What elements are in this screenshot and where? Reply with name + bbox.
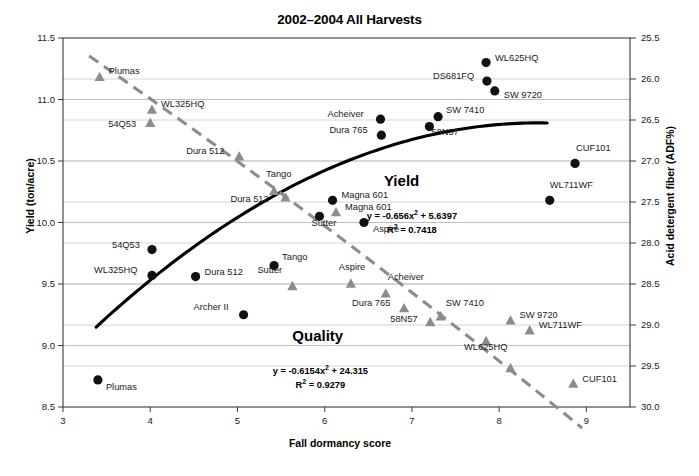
data-point-triangle [568,378,578,387]
x-tick: 4 [135,415,165,426]
y-tick-right: 27.5 [641,196,685,207]
y-tick-right: 29.5 [641,360,685,371]
point-label: Aspire [339,263,365,272]
point-label: 54Q53 [112,241,140,250]
point-label: Acheiver [388,273,424,282]
data-point-triangle [505,363,515,372]
data-point-triangle [287,281,297,290]
point-label: DS681FQ [433,72,474,81]
data-point-circle [482,76,491,85]
y-tick-left: 10.5 [15,155,55,166]
y-axis-left-title: Yield (ton/acre) [24,96,36,296]
x-tick: 6 [310,415,340,426]
point-label: SW 9720 [519,311,557,320]
series-annotation: Yield [384,172,419,189]
data-point-circle [377,131,386,140]
data-point-circle [239,310,248,319]
data-point-circle [481,58,490,67]
y-tick-right: 25.5 [641,32,685,43]
y-tick-left: 9.0 [15,340,55,351]
point-label: 58N57 [390,315,417,324]
y-tick-left: 9.5 [15,278,55,289]
point-label: SW 7410 [446,106,484,115]
point-label: Acheiver [328,110,364,119]
x-axis-title: Fall dormancy score [0,437,680,449]
y-tick-right: 28.0 [641,237,685,248]
point-label: Dura 765 [352,299,390,308]
point-label: Magna 601 [342,191,389,200]
point-label: WL711WF [539,321,582,330]
y-tick-right: 26.0 [641,73,685,84]
point-label: CUF101 [576,144,611,153]
r-squared-text: R2 = 0.7418 [387,225,437,235]
y-tick-left: 11.5 [15,32,55,43]
y-tick-right: 27.0 [641,155,685,166]
data-point-circle [93,375,102,384]
data-point-circle [147,245,156,254]
regression-equation: y = -0.656x2 + 5.6397R2 = 0.7418 [332,208,492,237]
point-label: WL325HQ [94,266,137,275]
y-tick-right: 28.5 [641,278,685,289]
data-point-circle [433,112,442,121]
y-tick-right: 30.0 [641,401,685,412]
point-label: Dura 512 [205,268,243,277]
x-tick: 5 [222,415,252,426]
equation-text: y = -0.6154x2 + 24.315 [273,366,368,376]
y-tick-left: 8.5 [15,401,55,412]
data-point-triangle [425,317,435,326]
data-point-triangle [399,303,409,312]
point-label: Plumas [106,383,137,392]
point-label: Archer II [194,303,229,312]
point-label: SW 9720 [504,91,542,100]
point-label: Tango [282,253,307,262]
data-point-triangle [381,288,391,297]
point-label: Dura 512 [186,147,224,156]
x-tick: 3 [48,415,78,426]
y-tick-left: 10.0 [15,217,55,228]
data-point-circle [147,271,156,280]
point-label: WL625HQ [495,54,538,63]
data-point-circle [490,86,499,95]
data-point-triangle [346,278,356,287]
point-label: 58N57 [431,128,458,137]
data-point-circle [376,115,385,124]
data-point-circle [328,196,337,205]
chart-figure: 2002–2004 All Harvests Plumas54Q53WL325H… [0,0,699,476]
point-label: Tango [266,170,291,179]
point-label: CUF101 [582,375,617,384]
y-tick-left: 11.0 [15,94,55,105]
data-point-triangle [525,325,535,334]
y-tick-right: 29.0 [641,319,685,330]
point-label: SW 7410 [446,299,484,308]
point-label: Dura 512 [230,195,268,204]
data-point-triangle [147,104,157,113]
y-tick-right: 26.5 [641,114,685,125]
data-point-circle [191,272,200,281]
point-label: Dura 765 [329,126,367,135]
plot-canvas [0,0,699,476]
point-label: WL625HQ [464,343,507,352]
x-tick: 8 [484,415,514,426]
data-point-triangle [145,118,155,127]
data-point-circle [545,196,554,205]
point-label: 54Q53 [108,120,136,129]
series-annotation: Quality [292,327,343,344]
data-point-triangle [95,72,105,81]
point-label: Plumas [109,67,140,76]
r-squared-text: R2 = 0.9279 [296,380,346,390]
point-label: WL325HQ [161,100,204,109]
regression-equation: y = -0.6154x2 + 24.315R2 = 0.9279 [240,363,400,392]
x-tick: 9 [571,415,601,426]
point-label: WL711WF [550,181,593,190]
data-point-triangle [234,151,244,160]
data-point-circle [570,159,579,168]
data-point-triangle [505,315,515,324]
x-tick: 7 [397,415,427,426]
equation-text: y = -0.656x2 + 5.6397 [367,211,457,221]
point-label: Sutter [257,266,282,275]
